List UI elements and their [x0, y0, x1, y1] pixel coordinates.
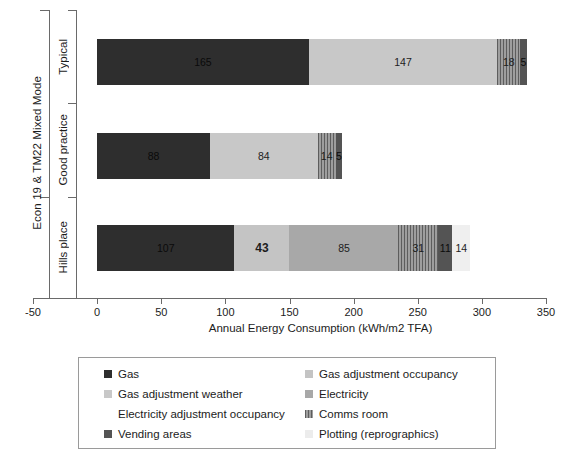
legend-item[interactable]: Gas [79, 364, 286, 384]
bar-segment-label: 11 [440, 243, 451, 254]
y-axis-category-hills-place: Hills place [52, 197, 74, 298]
x-axis-tick-label: 250 [409, 306, 427, 318]
bar-segment: 85 [289, 225, 398, 271]
bar-row: 1074385311114 [97, 225, 470, 271]
bar-segment: 88 [97, 133, 210, 179]
x-axis-tick [290, 298, 291, 304]
legend-swatch [104, 370, 112, 378]
bar-segment: 14 [452, 225, 470, 271]
x-axis-tick-label: 100 [216, 306, 234, 318]
bar-row: 165147185 [97, 39, 527, 85]
x-axis-title-text: Annual Energy Consumption (kWh/m2 TFA) [209, 322, 433, 334]
x-axis-tick-label: 300 [473, 306, 491, 318]
bar-segment-label: 43 [255, 242, 268, 254]
bar-segment-label: 85 [338, 243, 350, 254]
plot-area: Econ 19 & TM22 Mixed Mode Typical Good p… [0, 0, 583, 340]
legend-label: Gas adjustment occupancy [319, 368, 458, 380]
legend-item[interactable]: Electricity adjustment occupancy [79, 404, 286, 424]
bar-segment-label: 14 [321, 151, 333, 162]
chart-legend: GasGas adjustment occupancyGas adjustmen… [78, 357, 496, 449]
bar-segment: 5 [336, 133, 342, 179]
legend-item[interactable]: Vending areas [79, 424, 286, 444]
x-axis-tick-label: 50 [155, 306, 167, 318]
legend-swatch [104, 410, 112, 418]
x-axis-tick [161, 298, 162, 304]
bar-segment-label: 18 [503, 57, 515, 68]
legend-swatch [305, 430, 313, 438]
x-axis-tick-label: 0 [94, 306, 100, 318]
bar-segment-label: 147 [394, 57, 412, 68]
legend-label: Gas [118, 368, 139, 380]
legend-swatch [305, 390, 313, 398]
legend-item[interactable]: Gas adjustment occupancy [286, 364, 493, 384]
bar-segment-label: 5 [336, 151, 342, 162]
y-axis-group-label: Econ 19 & TM22 Mixed Mode [26, 8, 48, 298]
y-axis-category-label: Typical [57, 39, 69, 75]
legend-swatch [305, 370, 313, 378]
y-axis-inner-line [76, 10, 77, 298]
x-axis-tick [225, 298, 226, 304]
bar-segment: 18 [497, 39, 520, 85]
legend-swatch [104, 390, 112, 398]
legend-label: Electricity [319, 388, 368, 400]
legend-label: Comms room [319, 408, 388, 420]
bar-segment-label: 88 [148, 151, 160, 162]
bar-segment-label: 14 [455, 243, 467, 254]
bar-segment: 165 [97, 39, 309, 85]
bar-segment: 5 [520, 39, 526, 85]
bar-segment: 147 [309, 39, 498, 85]
bar-segment: 31 [398, 225, 438, 271]
stacked-bar-chart: Econ 19 & TM22 Mixed Mode Typical Good p… [0, 0, 583, 467]
bar-row: 8884145 [97, 133, 342, 179]
legend-grid: GasGas adjustment occupancyGas adjustmen… [79, 364, 495, 444]
x-axis-tick-label: 350 [537, 306, 555, 318]
legend-item[interactable]: Electricity [286, 384, 493, 404]
legend-item[interactable]: Plotting (reprographics) [286, 424, 493, 444]
bar-segment: 43 [234, 225, 289, 271]
legend-swatch [104, 430, 112, 438]
bar-segment-label: 31 [413, 243, 425, 254]
y-axis-category-typical: Typical [52, 10, 74, 103]
y-axis-group-label-text: Econ 19 & TM22 Mixed Mode [31, 76, 43, 230]
y-axis-category-good-practice: Good practice [52, 103, 74, 197]
x-axis-tick [354, 298, 355, 304]
legend-label: Gas adjustment weather [118, 388, 243, 400]
bar-segment: 107 [97, 225, 234, 271]
x-axis-tick [546, 298, 547, 304]
bar-segment: 14 [318, 133, 336, 179]
legend-label: Vending areas [118, 428, 192, 440]
x-axis-title: Annual Energy Consumption (kWh/m2 TFA) [0, 322, 583, 334]
x-axis-tick-label: -50 [25, 306, 41, 318]
legend-label: Electricity adjustment occupancy [118, 408, 285, 420]
legend-label: Plotting (reprographics) [319, 428, 439, 440]
x-axis-tick [418, 298, 419, 304]
legend-item[interactable]: Comms room [286, 404, 493, 424]
y-axis-category-label: Hills place [57, 221, 69, 273]
x-axis-tick [33, 298, 34, 304]
bar-segment: 11 [438, 225, 452, 271]
bar-segment: 84 [210, 133, 318, 179]
bar-segment-label: 107 [157, 243, 175, 254]
x-axis-tick [482, 298, 483, 304]
bar-segment-label: 84 [258, 151, 270, 162]
x-axis-tick [97, 298, 98, 304]
bar-segment-label: 5 [521, 57, 527, 68]
x-axis-tick-label: 200 [344, 306, 362, 318]
legend-item[interactable]: Gas adjustment weather [79, 384, 286, 404]
legend-swatch [305, 410, 313, 418]
y-axis-outer-line [49, 10, 50, 298]
bar-segment-label: 165 [194, 57, 212, 68]
y-axis-category-label: Good practice [57, 114, 69, 186]
x-axis-tick-label: 150 [280, 306, 298, 318]
